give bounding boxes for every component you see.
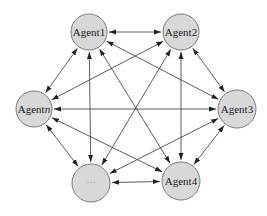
edge-agent4-ellipsis <box>112 182 160 183</box>
node-agentn: Agentn <box>16 91 52 127</box>
node-agent4: Agent4 <box>162 162 200 200</box>
node-label: Agent4 <box>165 175 198 187</box>
node-label: Agent1 <box>73 26 105 38</box>
node-agent1: Agent1 <box>71 14 107 50</box>
node-agent2: Agent2 <box>163 14 199 50</box>
edge-ellipsis-agentn <box>46 125 78 167</box>
edge-agent2-agent3 <box>193 48 225 92</box>
edge-agentn-agent1 <box>46 48 78 92</box>
node-label: ··· <box>87 177 96 187</box>
edge-agent3-agent4 <box>194 126 224 165</box>
node-label: Agent3 <box>221 103 254 115</box>
edge-agent1-ellipsis <box>89 52 90 162</box>
edge-agent4-agentn <box>52 118 162 172</box>
agent-network-diagram: Agent1Agent2Agent3Agent4···Agentn <box>0 0 267 216</box>
node-label: Agent2 <box>165 26 197 38</box>
node-agent3: Agent3 <box>218 90 256 128</box>
edge-agent2-agentn <box>52 41 164 99</box>
node-ellipsis: ··· <box>72 164 110 202</box>
edge-agent3-ellipsis <box>110 119 219 174</box>
edge-agent1-agent3 <box>107 41 219 99</box>
edges-layer <box>46 32 225 183</box>
node-label: Agentn <box>18 103 51 115</box>
